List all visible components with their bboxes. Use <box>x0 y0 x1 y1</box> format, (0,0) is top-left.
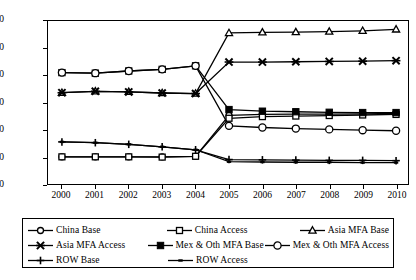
legend-marker-small-dash-icon <box>167 253 194 266</box>
y-tick-mark <box>43 185 47 186</box>
x-tick-mark <box>296 185 297 189</box>
x-tick-mark <box>162 185 163 189</box>
y-tick-mark <box>43 130 47 131</box>
x-tick-mark <box>263 185 264 189</box>
legend-label: ROW Access <box>194 255 248 265</box>
legend-marker-open-square-icon <box>166 223 193 236</box>
y-tick-label: 0 <box>0 180 4 189</box>
y-tick-label: 30 <box>0 98 4 107</box>
x-tick-mark <box>195 185 196 189</box>
legend-marker-cross-x-icon <box>27 238 54 251</box>
x-tick-mark <box>229 185 230 189</box>
legend-label: Asia MFA Access <box>54 240 125 250</box>
legend-item-china-base[interactable]: China Base <box>27 222 166 237</box>
plot-area <box>47 20 409 185</box>
legend-item-asia-mfa-base[interactable]: Asia MFA Base <box>299 222 389 237</box>
legend-item-row-base[interactable]: ROW Base <box>27 252 167 267</box>
legend-item-mex-oth-mfa-access[interactable]: Mex & Oth MFA Access <box>264 237 389 252</box>
legend-marker-filled-square-icon <box>147 238 174 251</box>
chart-legend: China BaseChina AccessAsia MFA BaseAsia … <box>22 218 394 268</box>
series-china-access <box>59 111 399 160</box>
y-tick-mark <box>43 158 47 159</box>
legend-item-china-access[interactable]: China Access <box>166 222 299 237</box>
legend-label: ROW Base <box>54 255 100 265</box>
x-tick-mark <box>363 185 364 189</box>
series-mex-oth-mfa-access <box>58 62 399 134</box>
x-tick-mark <box>95 185 96 189</box>
y-tick-label: 50 <box>0 43 4 52</box>
legend-item-row-access[interactable]: ROW Access <box>167 252 301 267</box>
y-tick-label: 20 <box>0 125 4 134</box>
chart-figure: hSare of US Apparel Imports 010203040506… <box>0 0 416 280</box>
legend-item-asia-mfa-access[interactable]: Asia MFA Access <box>27 237 147 252</box>
legend-label: China Base <box>54 225 101 235</box>
legend-label: China Access <box>193 225 248 235</box>
x-tick-label: 2010 <box>377 190 416 200</box>
legend-marker-plus-icon <box>27 253 54 266</box>
legend-label: Asia MFA Base <box>326 225 389 235</box>
x-tick-mark <box>61 185 62 189</box>
legend-marker-large-open-circle-icon <box>264 238 291 251</box>
y-tick-label: 40 <box>0 70 4 79</box>
legend-row: Asia MFA AccessMex & Oth MFA BaseMex & O… <box>27 237 389 252</box>
series-row-base <box>58 138 400 164</box>
y-tick-label: 10 <box>0 153 4 162</box>
legend-marker-open-circle-icon <box>27 223 54 236</box>
legend-item-mex-oth-mfa-base[interactable]: Mex & Oth MFA Base <box>147 237 264 252</box>
series-layer <box>48 21 408 184</box>
y-tick-label: 60 <box>0 15 4 24</box>
legend-row: China BaseChina AccessAsia MFA Base <box>27 222 389 237</box>
y-tick-mark <box>43 20 47 21</box>
legend-label: Mex & Oth MFA Base <box>174 240 264 250</box>
y-tick-mark <box>43 48 47 49</box>
y-tick-mark <box>43 75 47 76</box>
y-tick-mark <box>43 103 47 104</box>
legend-marker-open-triangle-icon <box>299 223 326 236</box>
x-tick-mark <box>397 185 398 189</box>
series-asia-mfa-access <box>58 57 401 97</box>
x-tick-mark <box>128 185 129 189</box>
legend-row: ROW BaseROW Access <box>27 252 389 267</box>
x-tick-mark <box>330 185 331 189</box>
series-mex-oth-mfa-base <box>59 63 400 116</box>
legend-label: Mex & Oth MFA Access <box>291 240 389 250</box>
